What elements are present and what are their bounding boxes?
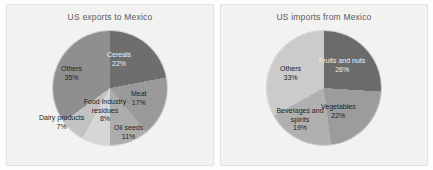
slice-label-cereals-name: Cereals (107, 51, 131, 58)
slice-label-fruits-and-nuts: Fruits and nuts 26% (319, 57, 365, 74)
slice-label-cereals: Cereals 22% (107, 51, 131, 68)
slice-label-dairy-products: Dairy products 7% (39, 114, 84, 131)
slice-label-others-exports: Others 35% (61, 65, 82, 82)
slice-label-oil-seeds: Oil seeds 11% (114, 124, 143, 141)
slice-label-meat-name: Meat (131, 90, 147, 97)
slice-label-beverages-and-spirits-name: Beverages and spirits (276, 107, 323, 123)
pie-wrap-imports: Fruits and nuts 26% Vegetables 22% Bever… (259, 27, 389, 157)
slice-label-oil-seeds-value: 11% (114, 133, 143, 142)
slice-label-others-imports-name: Others (280, 65, 301, 72)
slice-label-cereals-value: 22% (107, 60, 131, 69)
slice-label-food-industry-residues-name: Food industry residues (84, 98, 126, 114)
slice-label-oil-seeds-name: Oil seeds (114, 124, 143, 131)
slice-label-food-industry-residues: Food industry residues 8% (78, 98, 132, 124)
slice-label-others-imports-value: 33% (280, 74, 301, 83)
slice-label-dairy-products-value: 7% (39, 123, 84, 132)
slice-label-meat: Meat 17% (131, 90, 147, 107)
slice-label-fruits-and-nuts-value: 26% (319, 66, 365, 75)
chart-title-exports: US exports to Mexico (7, 12, 213, 22)
slice-label-others-exports-value: 35% (61, 74, 82, 83)
pie-wrap-exports: Cereals 22% Meat 17% Oil seeds 11% Food … (45, 27, 175, 157)
pie-charts-figure: US exports to Mexico Cereals 22% Meat 17… (0, 0, 433, 170)
slice-label-others-exports-name: Others (61, 65, 82, 72)
chart-panel-exports: US exports to Mexico Cereals 22% Meat 17… (6, 4, 214, 166)
slice-label-beverages-and-spirits-value: 19% (273, 124, 327, 133)
slice-label-fruits-and-nuts-name: Fruits and nuts (319, 57, 365, 64)
slice-label-others-imports: Others 33% (280, 65, 301, 82)
chart-panel-imports: US imports from Mexico Fruits and nuts 2… (220, 4, 428, 166)
slice-label-dairy-products-name: Dairy products (39, 114, 84, 121)
slice-label-meat-value: 17% (131, 99, 147, 108)
slice-label-beverages-and-spirits: Beverages and spirits 19% (273, 107, 327, 133)
slice-label-food-industry-residues-value: 8% (78, 115, 132, 124)
chart-title-imports: US imports from Mexico (221, 12, 427, 22)
